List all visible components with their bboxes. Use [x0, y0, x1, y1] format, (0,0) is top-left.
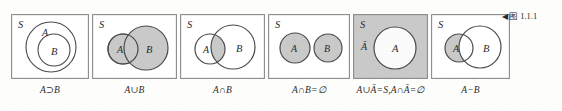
set-a-label: A: [41, 27, 49, 38]
figure-reference-label: 图: [509, 11, 518, 21]
set-b-label: B: [483, 43, 490, 54]
set-a-label: A: [116, 44, 124, 55]
venn-caption-strip: A⊃B A∪B A∩B A∩B=∅ A∪Ā=S,A∩Ā=∅ A−B: [11, 84, 491, 102]
venn-panel-a-union-b: S A B: [92, 14, 177, 79]
set-a-label: A: [452, 43, 460, 54]
venn-panel-a-superset-b: S A B: [11, 14, 89, 79]
set-a-label: A: [391, 43, 399, 54]
set-b-label: B: [324, 43, 330, 54]
set-a-complement-label: Ā: [360, 41, 368, 52]
venn-panel-a-minus-b: S A B: [431, 14, 510, 79]
caption-a-intersect-b: A∩B: [180, 84, 265, 97]
left-triangle-icon: ◀: [502, 12, 508, 21]
venn-panel-a-intersect-b: S A B: [180, 14, 265, 79]
caption-a-minus-b: A−B: [431, 84, 510, 97]
set-a-label: A: [202, 44, 210, 55]
set-b-label: B: [51, 46, 58, 57]
figure-reference: ◀图1.1.1: [502, 11, 537, 22]
set-b-label: B: [236, 43, 243, 54]
venn-panel-complement: S Ā A: [353, 14, 428, 79]
venn-figure-root: S A B S A B: [0, 0, 562, 111]
universe-label: S: [438, 19, 444, 30]
set-b-label: B: [146, 44, 153, 55]
caption-complement: A∪Ā=S,A∩Ā=∅: [353, 84, 428, 97]
universe-label: S: [99, 19, 105, 30]
venn-panel-strip: S A B S A B: [11, 14, 491, 79]
universe-label: S: [187, 19, 193, 30]
set-a-label: A: [290, 43, 298, 54]
universe-label: S: [360, 19, 366, 30]
caption-a-intersect-b-empty: A∩B=∅: [268, 84, 350, 97]
figure-reference-number: 1.1.1: [520, 11, 537, 21]
venn-panel-a-intersect-b-empty: S A B: [268, 14, 350, 79]
universe-label: S: [275, 19, 281, 30]
universe-label: S: [18, 19, 24, 30]
caption-a-superset-b: A⊃B: [11, 84, 89, 97]
caption-a-union-b: A∪B: [92, 84, 177, 97]
